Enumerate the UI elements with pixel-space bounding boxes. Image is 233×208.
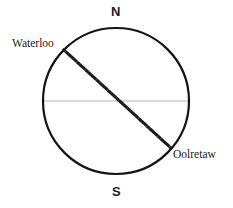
globe-diagram-svg	[0, 0, 233, 208]
diagram-canvas: N S Waterloo Oolretaw	[0, 0, 233, 208]
south-pole-label: S	[112, 185, 121, 198]
waterloo-label: Waterloo	[12, 38, 54, 50]
oolretaw-label: Oolretaw	[173, 149, 216, 161]
waterloo-oolretaw-diameter	[64, 50, 172, 149]
north-pole-label: N	[111, 5, 120, 18]
